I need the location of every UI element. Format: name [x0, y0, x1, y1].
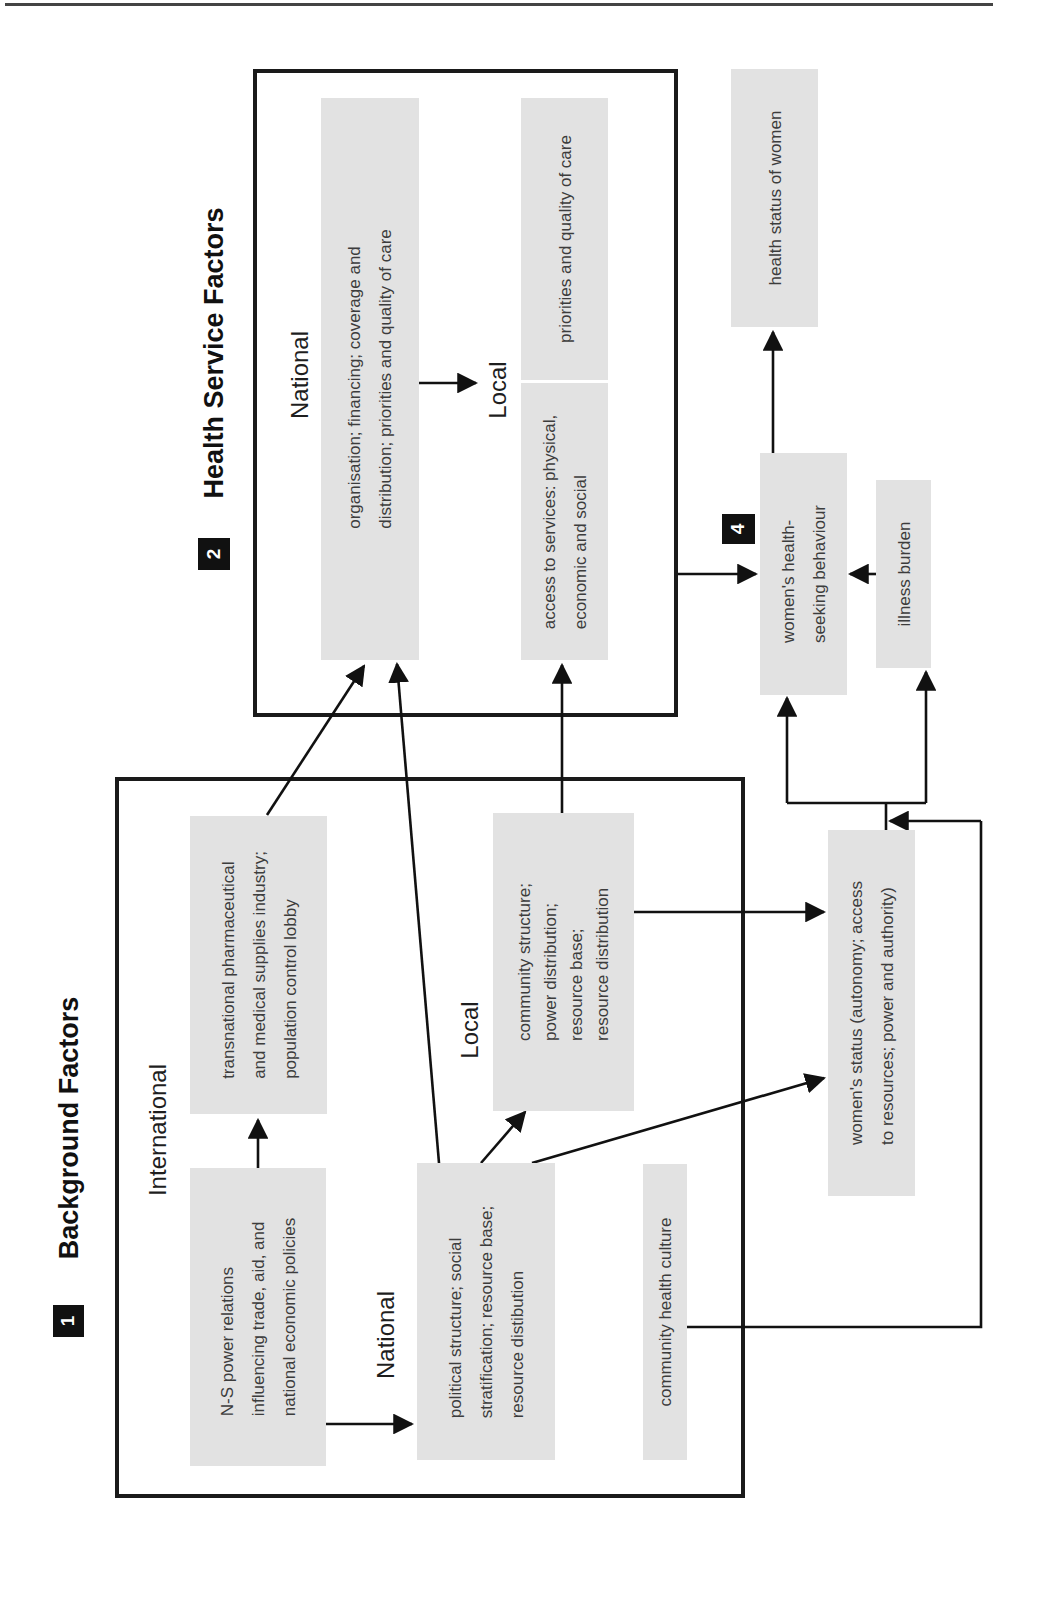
section-badge-2: 2 — [198, 538, 230, 570]
box-health-status-of-women: health status of women — [731, 69, 818, 327]
box-line: economic and social — [565, 414, 596, 628]
box-text: transnational pharmaceutical and medical… — [212, 851, 305, 1079]
background-factors-title: Background Factors — [50, 960, 88, 1295]
box-line: health status of women — [759, 111, 790, 286]
box-womens-health-seeking-behaviour: women's health- seeking behaviour — [760, 453, 847, 695]
box-line: priorities and quality of care — [549, 135, 580, 343]
box-line: women's health- — [773, 505, 804, 643]
box-line: to resources; power and authority) — [872, 881, 903, 1145]
box-text: health status of women — [759, 111, 790, 286]
box-hs-local-access: access to services: physical, economic a… — [521, 383, 608, 660]
box-line: access to services: physical, — [534, 414, 565, 628]
box-line: and medical supplies industry; — [243, 851, 274, 1079]
box-line: influencing trade, aid, and — [243, 1218, 274, 1416]
level-text: National — [372, 1291, 400, 1379]
box-community-structure: community structure; power distribution;… — [493, 813, 634, 1111]
level-label-national-hs: National — [282, 310, 318, 440]
title-text: Background Factors — [54, 996, 85, 1259]
level-label-local-bg: Local — [452, 985, 488, 1075]
level-text: National — [286, 331, 314, 419]
box-line: population control lobby — [274, 851, 305, 1079]
box-line: political structure; social — [440, 1205, 471, 1418]
box-text: women's status (autonomy; access to reso… — [841, 881, 903, 1145]
box-line: community structure; — [512, 883, 538, 1041]
box-womens-status: women's status (autonomy; access to reso… — [828, 830, 915, 1196]
level-label-national-bg: National — [368, 1270, 404, 1400]
level-text: International — [144, 1064, 172, 1196]
section-badge-4: 4 — [722, 514, 755, 544]
box-text: community health culture — [650, 1218, 681, 1407]
box-hs-national-organisation: organisation; financing; coverage and di… — [321, 98, 419, 660]
box-text: community structure; power distribution;… — [512, 883, 616, 1041]
box-political-structure: political structure; social stratificati… — [417, 1163, 555, 1460]
box-line: community health culture — [650, 1218, 681, 1407]
box-text: N-S power relations influencing trade, a… — [212, 1218, 305, 1416]
box-line: women's status (autonomy; access — [841, 881, 872, 1145]
box-line: resource distribution — [590, 883, 616, 1041]
level-text: Local — [484, 361, 512, 418]
box-text: illness burden — [888, 522, 919, 627]
box-line: stratification; resource base; — [471, 1205, 502, 1418]
box-line: distribution; priorities and quality of … — [370, 229, 401, 529]
box-text: access to services: physical, economic a… — [534, 414, 596, 628]
level-text: Local — [456, 1001, 484, 1058]
section-badge-1: 1 — [53, 1305, 84, 1337]
box-line: national economic policies — [274, 1218, 305, 1416]
badge-number: 4 — [727, 524, 749, 535]
badge-number: 1 — [57, 1316, 79, 1327]
box-line: transnational pharmaceutical — [212, 851, 243, 1079]
box-illness-burden: illness burden — [876, 480, 931, 668]
box-text: priorities and quality of care — [549, 135, 580, 343]
box-line: N-S power relations — [212, 1218, 243, 1416]
box-line: seeking behaviour — [804, 505, 835, 643]
level-label-international: International — [140, 1030, 176, 1230]
box-line: resource base; — [564, 883, 590, 1041]
box-community-health-culture: community health culture — [643, 1164, 687, 1460]
box-ns-power-relations: N-S power relations influencing trade, a… — [190, 1168, 326, 1466]
health-service-factors-title: Health Service Factors — [195, 175, 233, 530]
box-text: women's health- seeking behaviour — [773, 505, 835, 643]
box-line: power distribution; — [538, 883, 564, 1041]
box-line: resource distibution — [502, 1205, 533, 1418]
box-text: organisation; financing; coverage and di… — [339, 229, 401, 529]
box-transnational-industry: transnational pharmaceutical and medical… — [190, 816, 327, 1114]
box-hs-local-priorities: priorities and quality of care — [521, 98, 608, 380]
box-text: political structure; social stratificati… — [440, 1205, 533, 1418]
title-text: Health Service Factors — [199, 207, 230, 498]
badge-number: 2 — [203, 549, 225, 560]
box-line: organisation; financing; coverage and — [339, 229, 370, 529]
box-line: illness burden — [888, 522, 919, 627]
level-label-local-hs: Local — [480, 345, 516, 435]
